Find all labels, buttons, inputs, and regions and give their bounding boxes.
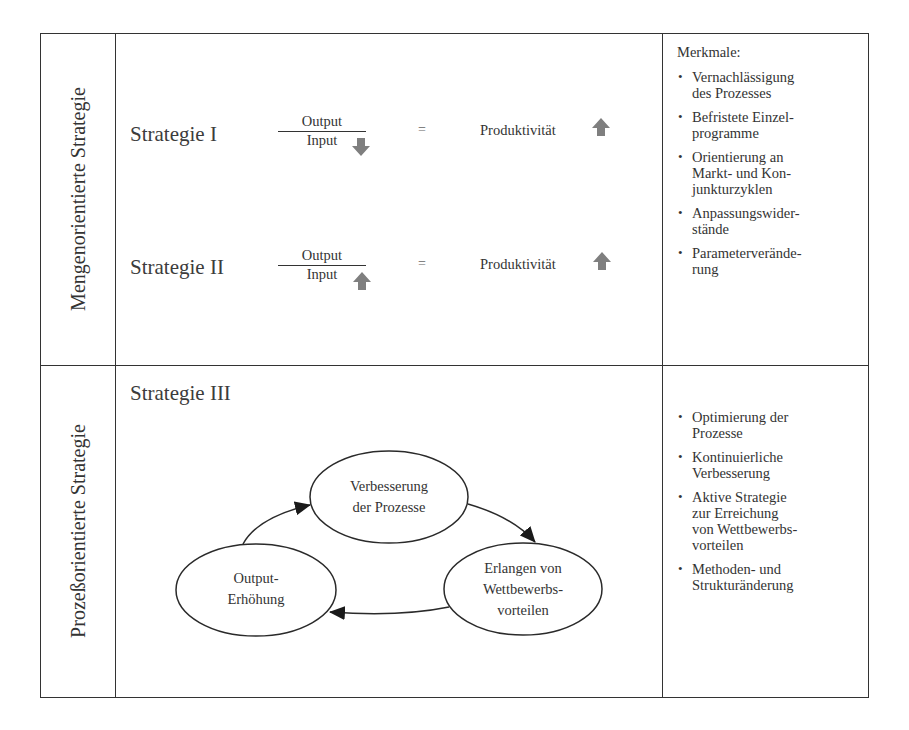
feature-item: Optimierung derProzesse xyxy=(677,409,862,441)
edge-verbesserung-erlangen xyxy=(468,504,535,542)
feature-item: KontinuierlicheVerbesserung xyxy=(677,449,862,481)
edge-output-verbesserung xyxy=(243,505,310,544)
improvement-cycle-diagram xyxy=(0,0,909,730)
node-erlangen-label: Erlangen vonWettbewerbs-vorteilen xyxy=(483,558,563,621)
features-list: Optimierung derProzesse KontinuierlicheV… xyxy=(677,409,862,593)
feature-item: Aktive Strategiezur Erreichungvon Wettbe… xyxy=(677,489,862,553)
node-verbesserung-label: Verbesserungder Prozesse xyxy=(350,476,428,518)
node-output-label: Output-Erhöhung xyxy=(227,568,284,610)
feature-item: Methoden- undStrukturänderung xyxy=(677,561,862,593)
features-prozessorientiert: Optimierung derProzesse KontinuierlicheV… xyxy=(677,409,862,601)
edge-erlangen-output xyxy=(330,607,449,614)
